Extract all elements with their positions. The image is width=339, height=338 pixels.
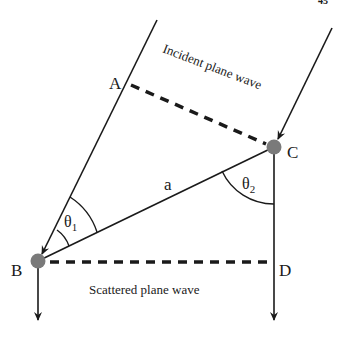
incident-wavefront xyxy=(131,85,266,144)
label-a: A xyxy=(109,74,122,93)
label-b: B xyxy=(11,261,22,280)
label-theta2: θ2 xyxy=(242,175,255,195)
scattering-diagram: 45 A B C D a θ1 θ2 Incident plane wave S… xyxy=(0,0,339,338)
incident-ray-right xyxy=(278,28,332,139)
theta1-arc-inner xyxy=(57,230,69,246)
incident-ray-left xyxy=(42,20,157,254)
label-segment-a: a xyxy=(164,175,172,194)
caption-scattered: Scattered plane wave xyxy=(89,282,200,297)
segment-bc xyxy=(38,147,274,261)
page-number-fragment: 45 xyxy=(318,0,328,6)
label-c: C xyxy=(287,143,298,162)
scatterer-c xyxy=(267,140,282,155)
label-theta1: θ1 xyxy=(64,213,77,233)
caption-incident: Incident plane wave xyxy=(161,41,264,93)
scatterer-b xyxy=(31,254,46,269)
label-d: D xyxy=(279,261,291,280)
